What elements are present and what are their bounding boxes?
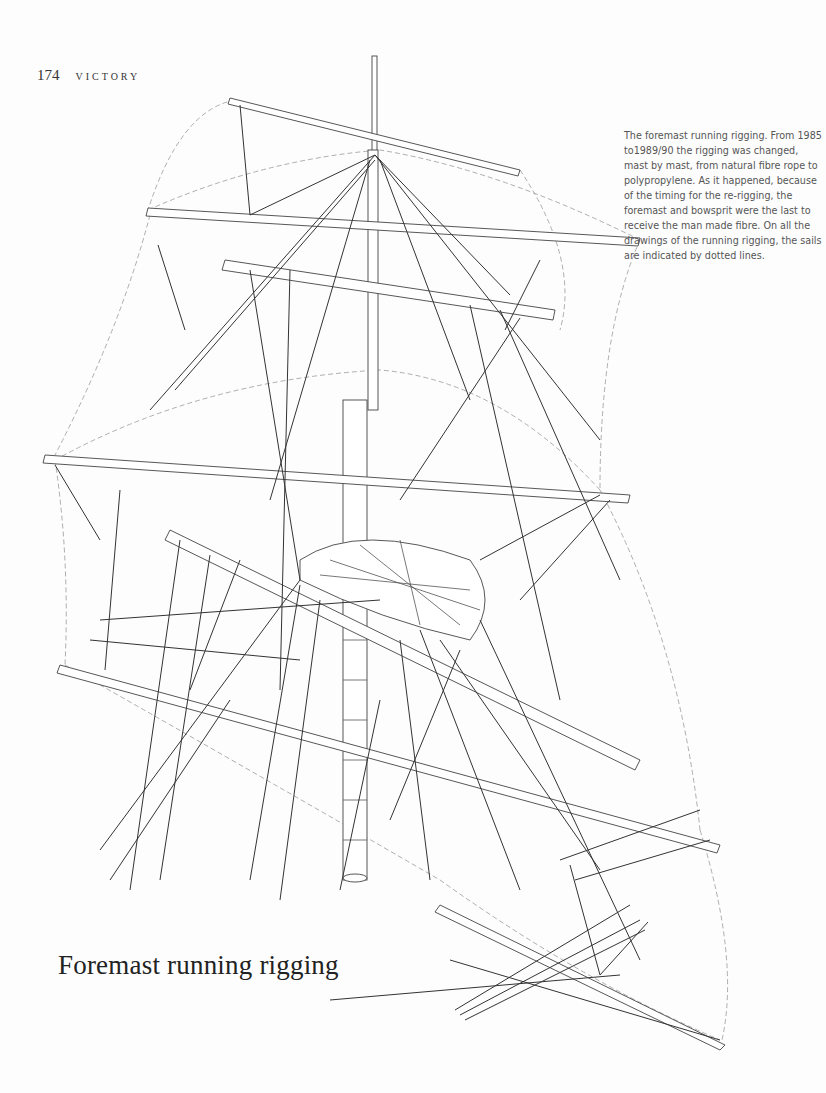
drawing-title: Foremast running rigging — [58, 950, 339, 981]
yards — [43, 98, 725, 1050]
book-page: 174 VICTORY — [0, 0, 826, 1093]
figure-caption: The foremast running rigging. From 1985 … — [624, 128, 824, 263]
